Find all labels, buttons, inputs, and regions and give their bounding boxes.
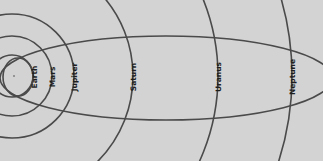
- orbit-mars: [0, 36, 52, 116]
- orbit-canvas: EarthMarsJupiterSaturnUranusNeptune: [0, 0, 323, 161]
- sun-dot: [13, 75, 15, 77]
- planet-label-neptune: Neptune: [288, 59, 297, 95]
- orbit-earth: [0, 55, 33, 97]
- diagram-background: EarthMarsJupiterSaturnUranusNeptune: [0, 0, 323, 161]
- planet-label-uranus: Uranus: [214, 61, 223, 92]
- orbit-neptune: [0, 0, 292, 161]
- planet-label-saturn: Saturn: [129, 63, 138, 91]
- planet-label-earth: Earth: [30, 66, 39, 89]
- planet-label-jupiter: Jupiter: [70, 62, 79, 92]
- solar-system-orbit-diagram: EarthMarsJupiterSaturnUranusNeptune: [0, 0, 330, 165]
- planet-label-mars: Mars: [48, 66, 57, 87]
